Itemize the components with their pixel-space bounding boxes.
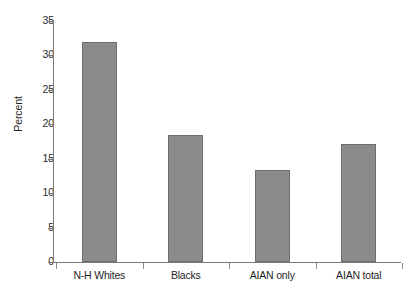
y-axis-tick-label-text: 5 [12,221,54,233]
y-axis-tick-label-text: 35 [12,14,54,26]
y-axis-tick-label-text: 25 [12,83,54,95]
y-axis-tick-label-text: 15 [12,152,54,164]
y-axis-tick-label-text: 10 [12,186,54,198]
x-axis-tick-mark [402,263,403,269]
bar-chart-figure: Percent 35302520151050 N-H WhitesBlacksA… [0,0,417,302]
y-axis-tick-label-text: 20 [12,117,54,129]
plot-area [54,21,400,262]
x-axis-category-label: AIAN only [229,269,316,281]
bar [82,42,117,262]
bar [255,170,290,262]
y-axis-tick-label-text: 0 [12,255,54,267]
bar [168,135,203,262]
y-axis-tick-label-text: 30 [12,48,54,60]
x-axis-line [53,262,401,263]
bar [341,144,376,262]
x-axis-category-label: N-H Whites [56,269,143,281]
x-axis-category-label: Blacks [143,269,230,281]
x-axis-category-label: AIAN total [316,269,403,281]
